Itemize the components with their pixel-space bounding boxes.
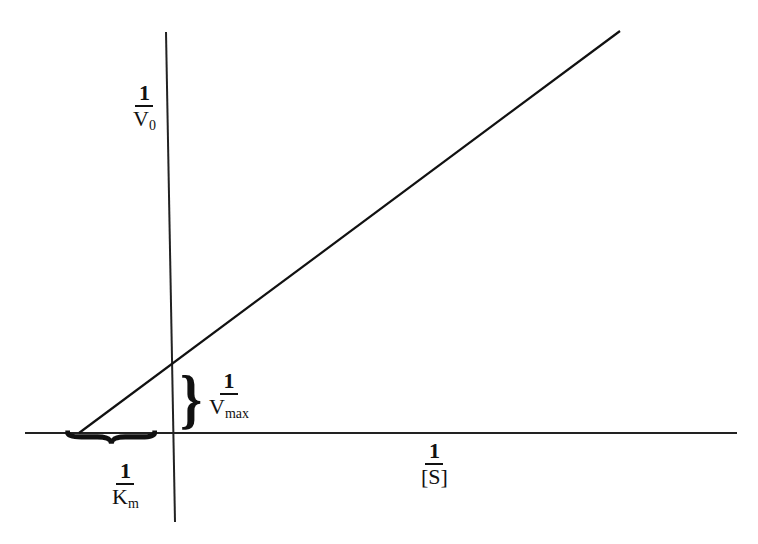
regression-line <box>79 31 620 433</box>
km-brace-icon: } <box>62 429 173 445</box>
y-axis-label: 1 V0 <box>133 82 156 133</box>
y-axis <box>166 32 175 522</box>
y-label-numerator: 1 <box>139 82 150 105</box>
x-axis-label: 1 [S] <box>421 440 448 488</box>
vmax-numerator: 1 <box>224 370 235 393</box>
vmax-denominator: V <box>209 394 225 419</box>
vmax-label: 1 Vmax <box>209 370 249 421</box>
x-label-denominator: [S] <box>421 465 448 488</box>
vmax-subscript: max <box>225 406 249 421</box>
km-label: 1 Km <box>112 460 139 511</box>
x-label-numerator: 1 <box>429 440 440 463</box>
vmax-brace-icon: } <box>180 366 202 432</box>
km-numerator: 1 <box>120 460 131 483</box>
km-subscript: m <box>128 496 139 511</box>
y-label-denominator: V <box>133 106 149 131</box>
km-denominator: K <box>112 484 128 509</box>
y-label-subscript: 0 <box>149 118 156 133</box>
